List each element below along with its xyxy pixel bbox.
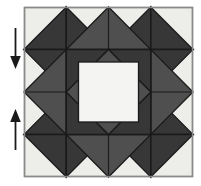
direction-arrows [0, 0, 201, 186]
down-arrow [10, 28, 21, 69]
up-arrow-head [10, 109, 21, 122]
down-arrow-head [10, 56, 21, 69]
figure-canvas: Quilt block piecing diagram [0, 0, 201, 186]
up-arrow [10, 109, 21, 150]
